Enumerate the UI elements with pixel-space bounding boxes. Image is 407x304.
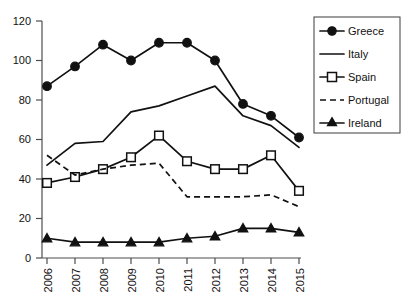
x-tick-label: 2006 [42, 268, 54, 292]
data-point-circle [211, 56, 220, 65]
series-italy [47, 86, 299, 165]
data-point-circle [43, 82, 52, 91]
legend-entry-spain[interactable]: Spain [320, 71, 376, 83]
y-tick-label: 120 [13, 15, 31, 27]
x-axis [42, 258, 301, 264]
x-tick-label: 2008 [98, 268, 110, 292]
series-spain [43, 131, 304, 195]
data-point-circle [127, 56, 136, 65]
series-greece [43, 38, 304, 141]
series-line [47, 228, 299, 242]
series-ireland [42, 224, 304, 246]
legend-label: Portugal [348, 94, 389, 106]
x-tick-label: 2015 [294, 268, 306, 292]
legend-label: Spain [348, 71, 376, 83]
data-point-circle [99, 40, 108, 49]
y-tick-label: 60 [19, 133, 31, 145]
legend-label: Ireland [348, 117, 382, 129]
x-tick-label: 2012 [210, 268, 222, 292]
data-point-square [211, 165, 220, 174]
series-layer [42, 38, 304, 245]
series-line [47, 43, 299, 138]
x-tick-label: 2010 [154, 268, 166, 292]
y-axis [36, 21, 42, 258]
data-point-square [43, 179, 52, 188]
line-chart: 120 100 80 60 40 20 0 [0, 0, 407, 304]
y-tick-label: 20 [19, 212, 31, 224]
y-tick-label: 0 [25, 252, 31, 264]
x-tick-label: 2013 [238, 268, 250, 292]
data-point-circle [71, 62, 80, 71]
series-line [47, 155, 299, 206]
x-tick-label: 2009 [126, 268, 138, 292]
x-tick-label: 2011 [182, 268, 194, 292]
y-tick-label: 100 [13, 54, 31, 66]
data-point-circle [155, 38, 164, 47]
data-point-square [127, 153, 136, 162]
data-point-square [155, 131, 164, 140]
chart-legend: Greece Italy Spain Portugal Ireland [314, 17, 400, 133]
x-axis-labels: 2006 2007 2008 2009 2010 2011 2012 2013 … [42, 268, 306, 292]
data-point-circle [183, 38, 192, 47]
data-point-square [267, 151, 276, 160]
y-axis-labels: 120 100 80 60 40 20 0 [13, 15, 31, 264]
series-line [47, 136, 299, 191]
x-tick-label: 2007 [70, 268, 82, 292]
open-square-icon [328, 73, 337, 82]
data-point-circle [239, 100, 248, 109]
data-point-square [183, 157, 192, 166]
series-portugal [47, 155, 299, 206]
data-point-circle [295, 133, 304, 142]
filled-circle-icon [328, 27, 336, 35]
data-point-square [239, 165, 248, 174]
series-line [47, 86, 299, 165]
y-tick-label: 40 [19, 173, 31, 185]
x-tick-label: 2014 [266, 268, 278, 292]
data-point-square [295, 187, 304, 196]
legend-label: Italy [348, 48, 369, 60]
y-tick-label: 80 [19, 94, 31, 106]
data-point-triangle [42, 233, 52, 241]
data-point-circle [267, 112, 276, 121]
legend-label: Greece [348, 25, 384, 37]
chart-figure: 120 100 80 60 40 20 0 [0, 0, 407, 304]
